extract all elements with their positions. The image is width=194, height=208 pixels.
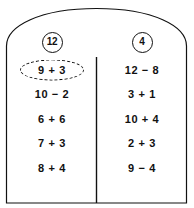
column-left-header-label: 12 (47, 37, 58, 47)
expression-text: 9 − 4 (128, 163, 156, 174)
expression-row[interactable]: 10 − 2 (6, 83, 98, 108)
expression-text: 12 − 8 (125, 65, 160, 76)
worksheet-container: 12 9 + 3 10 − 2 6 + 6 7 + 3 8 + 4 (0, 0, 194, 208)
expression-row[interactable]: 2 + 3 (96, 132, 188, 157)
column-right-header-label: 4 (139, 37, 144, 47)
column-left: 12 9 + 3 10 − 2 6 + 6 7 + 3 8 + 4 (6, 0, 98, 208)
expression-row[interactable]: 10 + 4 (96, 107, 188, 132)
expression-row[interactable]: 12 − 8 (96, 58, 188, 83)
expression-text: 7 + 3 (38, 138, 66, 149)
column-left-header: 12 (6, 31, 98, 53)
column-right-header: 4 (96, 31, 188, 53)
expression-row[interactable]: 8 + 4 (6, 156, 98, 181)
expression-text: 6 + 6 (38, 114, 66, 125)
column-right-expression-list: 12 − 8 3 + 1 10 + 4 2 + 3 9 − 4 (96, 58, 188, 181)
expression-row[interactable]: 7 + 3 (6, 132, 98, 157)
expression-text: 3 + 1 (128, 89, 156, 100)
expression-text: 9 + 3 (38, 65, 66, 76)
column-right: 4 12 − 8 3 + 1 10 + 4 2 + 3 9 − 4 (96, 0, 188, 208)
expression-text: 8 + 4 (38, 163, 66, 174)
answer-circle-badge: 12 (42, 32, 63, 53)
answer-circle-badge: 4 (132, 32, 153, 53)
expression-text: 2 + 3 (128, 138, 156, 149)
expression-row[interactable]: 9 + 3 (6, 58, 98, 83)
expression-text: 10 − 2 (35, 89, 70, 100)
expression-row[interactable]: 9 − 4 (96, 156, 188, 181)
expression-text: 10 + 4 (125, 114, 160, 125)
expression-row[interactable]: 3 + 1 (96, 83, 188, 108)
expression-row[interactable]: 6 + 6 (6, 107, 98, 132)
column-left-expression-list: 9 + 3 10 − 2 6 + 6 7 + 3 8 + 4 (6, 58, 98, 181)
